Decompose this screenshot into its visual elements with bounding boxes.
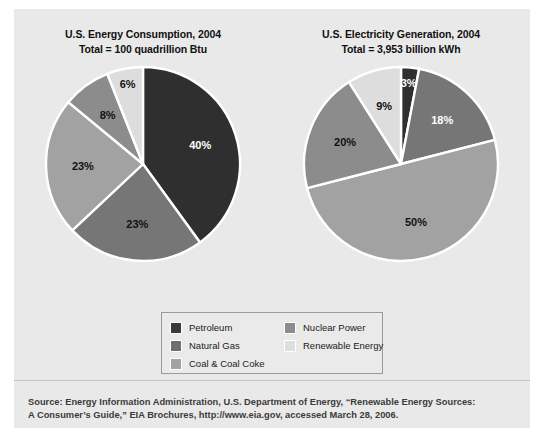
chart-subtitle-right: Total = 3,953 billion kWh — [272, 42, 530, 56]
figure-root: U.S. Energy Consumption, 2004 Total = 10… — [0, 0, 544, 437]
pie-chart-electricity-generation: U.S. Electricity Generation, 2004 Total … — [272, 23, 530, 309]
pie-slice-value-label: 18% — [431, 114, 453, 126]
legend-item: Coal & Coal Coke — [170, 355, 265, 372]
pie-slice-value-label: 40% — [189, 139, 211, 151]
legend-item-label: Petroleum — [189, 322, 232, 333]
legend-item-label: Coal & Coal Coke — [189, 358, 265, 369]
legend-item: Renewable Energy — [284, 337, 383, 354]
pie-slice-value-label: 3% — [401, 77, 417, 89]
legend-item-label: Renewable Energy — [303, 340, 383, 351]
legend-swatch-icon — [170, 340, 182, 352]
chart-title-left: U.S. Energy Consumption, 2004 — [14, 23, 272, 42]
legend-item: Nuclear Power — [284, 319, 365, 336]
legend-swatch-icon — [284, 340, 296, 352]
legend-item: Natural Gas — [170, 337, 240, 354]
pie-slice-value-label: 23% — [126, 218, 148, 230]
legend-grid: PetroleumNatural GasCoal & Coal CokeNucl… — [170, 319, 374, 373]
legend-item-label: Natural Gas — [189, 340, 240, 351]
pie-canvas-left: 40%23%23%8%6% — [43, 64, 243, 264]
pie-slice-value-label: 20% — [334, 136, 356, 148]
legend-item-label: Nuclear Power — [303, 322, 365, 333]
pie-canvas-right: 3%18%50%20%9% — [301, 64, 501, 264]
pie-slice-value-label: 50% — [405, 216, 427, 228]
charts-row: U.S. Energy Consumption, 2004 Total = 10… — [14, 23, 530, 309]
pie-slice-value-label: 23% — [72, 160, 94, 172]
source-line-1: Source: Energy Information Administratio… — [28, 396, 518, 409]
legend-swatch-icon — [170, 358, 182, 370]
pie-chart-energy-consumption: U.S. Energy Consumption, 2004 Total = 10… — [14, 23, 272, 309]
legend-swatch-icon — [170, 322, 182, 334]
chart-subtitle-left: Total = 100 quadrillion Btu — [14, 42, 272, 56]
legend-swatch-icon — [284, 322, 296, 334]
pie-svg-left: 40%23%23%8%6% — [43, 64, 243, 264]
legend-item: Petroleum — [170, 319, 232, 336]
source-line-2: A Consumer’s Guide,” EIA Brochures, http… — [28, 409, 518, 422]
pie-slice-value-label: 9% — [376, 100, 392, 112]
pie-slice-value-label: 8% — [100, 109, 116, 121]
source-divider — [14, 380, 530, 381]
figure-panel: U.S. Energy Consumption, 2004 Total = 10… — [14, 9, 530, 428]
chart-legend: PetroleumNatural GasCoal & Coal CokeNucl… — [161, 312, 383, 374]
pie-slice-value-label: 6% — [120, 78, 136, 90]
chart-title-right: U.S. Electricity Generation, 2004 — [272, 23, 530, 42]
pie-svg-right: 3%18%50%20%9% — [301, 64, 501, 264]
source-citation: Source: Energy Information Administratio… — [28, 396, 518, 421]
